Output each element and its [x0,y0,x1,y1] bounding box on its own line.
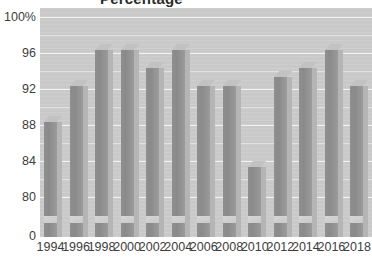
axis-break-notch [121,216,134,223]
bar-side-face [261,167,266,237]
bar [70,80,83,237]
bar-front-face [223,86,236,237]
bar-front-face [274,77,287,237]
bar [223,80,236,237]
axis-break-notch [325,216,338,223]
bar-series [40,8,372,237]
bar [350,80,363,237]
bar-side-face [83,86,88,237]
bar-front-face [121,50,134,237]
bar [95,44,108,237]
x-axis-tick-label: 2010 [241,240,269,254]
y-axis-tick-label: 0 [29,230,36,242]
bar-front-face [350,86,363,237]
x-axis-tick-label: 2016 [317,240,345,254]
axis-break-notch [70,216,83,223]
bar [121,44,134,237]
bar-chart: Percentage 100%96928884800 1994199619982… [0,0,372,265]
bar-side-face [185,50,190,237]
x-axis: 1994199619982000200220042006200820102012… [40,240,372,265]
bar-side-face [363,86,368,237]
axis-break-notch [274,216,287,223]
y-axis-tick-label: 92 [22,83,36,95]
x-axis-tick-label: 2018 [343,240,371,254]
x-axis-tick-label: 2000 [113,240,141,254]
y-axis-tick-label: 88 [22,119,36,131]
bar-side-face [312,68,317,237]
x-axis-tick-label: 1998 [88,240,116,254]
axis-break-notch [146,216,159,223]
bar [197,80,210,237]
bar-side-face [210,86,215,237]
bar-front-face [146,68,159,237]
axis-break-notch [350,216,363,223]
x-axis-tick-label: 2006 [190,240,218,254]
axis-break-notch [248,216,261,223]
bar-front-face [197,86,210,237]
bar-front-face [95,50,108,237]
x-axis-tick-label: 2014 [292,240,320,254]
bar-front-face [248,167,261,237]
x-axis-tick-label: 2012 [266,240,294,254]
bar [248,161,261,237]
y-axis-tick-label: 96 [22,47,36,59]
chart-title-text: Percentage [100,0,290,6]
bar [325,44,338,237]
bar [44,116,57,237]
bar-side-face [108,50,113,237]
bar-front-face [70,86,83,237]
axis-break-notch [223,216,236,223]
bar-side-face [338,50,343,237]
y-axis: 100%96928884800 [0,0,36,265]
axis-break-notch [299,216,312,223]
axis-break-notch [44,216,57,223]
y-axis-tick-label: 84 [22,155,36,167]
bar [299,62,312,237]
chart-title-cutoff: Percentage [100,0,290,7]
x-axis-tick-label: 1994 [37,240,65,254]
bar [274,71,287,237]
bar-front-face [299,68,312,237]
y-axis-tick-label: 100% [4,11,36,23]
axis-break-notch [95,216,108,223]
bar-side-face [236,86,241,237]
bar [146,62,159,237]
bar-side-face [287,77,292,237]
bar-side-face [159,68,164,237]
axis-break-notch [197,216,210,223]
bar-front-face [172,50,185,237]
x-axis-tick-label: 1996 [62,240,90,254]
x-axis-tick-label: 2002 [139,240,167,254]
x-axis-tick-label: 2004 [164,240,192,254]
bar-side-face [57,122,62,237]
bar-side-face [134,50,139,237]
axis-break-notch [172,216,185,223]
bar-front-face [325,50,338,237]
x-axis-tick-label: 2008 [215,240,243,254]
y-axis-tick-label: 80 [22,191,36,203]
bar [172,44,185,237]
